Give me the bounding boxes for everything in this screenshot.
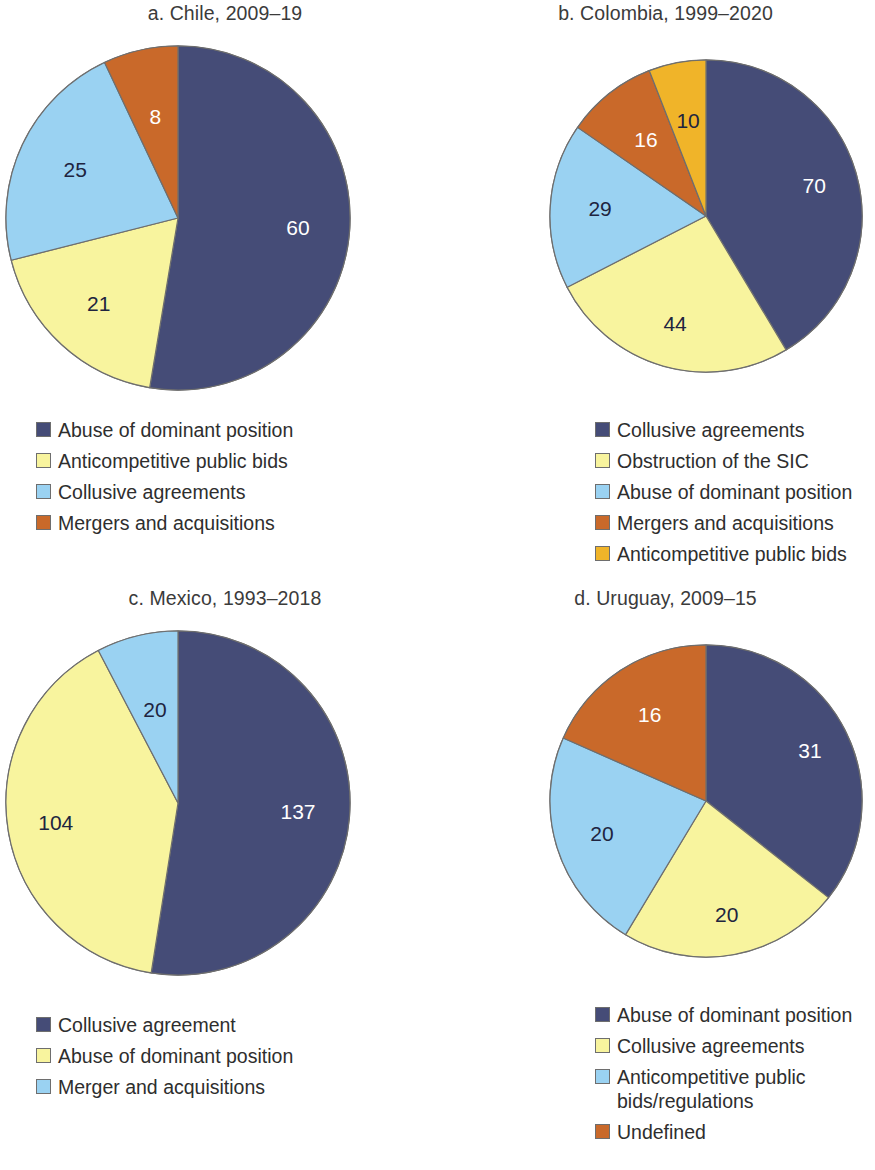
panel-title-mexico: c. Mexico, 1993–2018 bbox=[0, 587, 440, 609]
pie-chart-chile: 6021258 bbox=[0, 24, 440, 404]
legend-swatch-icon bbox=[595, 515, 610, 530]
legend-item-label: Obstruction of the SIC bbox=[617, 449, 809, 473]
pie-svg-uruguay: 31202016 bbox=[440, 609, 875, 989]
legend-item[interactable]: Abuse of dominant position bbox=[36, 418, 293, 442]
slice-value-label: 20 bbox=[143, 698, 166, 721]
legend-item-label: Anticompetitive public bids/regulations bbox=[617, 1065, 806, 1113]
legend-swatch-icon bbox=[595, 1124, 610, 1139]
legend-item[interactable]: Mergers and acquisitions bbox=[36, 511, 293, 535]
panel-title-uruguay: d. Uruguay, 2009–15 bbox=[440, 587, 875, 609]
panel-colombia: b. Colombia, 1999–2020 7044291610 Collus… bbox=[440, 0, 875, 585]
slice-value-label: 25 bbox=[64, 158, 87, 181]
legend-item-label: Anticompetitive public bids bbox=[58, 449, 288, 473]
legend-item[interactable]: Anticompetitive public bids bbox=[595, 542, 852, 566]
slice-value-label: 8 bbox=[150, 105, 162, 128]
legend-item[interactable]: Collusive agreements bbox=[595, 418, 852, 442]
legend-colombia: Collusive agreementsObstruction of the S… bbox=[595, 418, 852, 573]
panel-chile: a. Chile, 2009–19 6021258 Abuse of domin… bbox=[0, 0, 440, 585]
legend-item[interactable]: Collusive agreements bbox=[36, 480, 293, 504]
legend-item-label: Mergers and acquisitions bbox=[617, 511, 834, 535]
slice-value-label: 60 bbox=[286, 216, 309, 239]
legend-swatch-icon bbox=[595, 1038, 610, 1053]
legend-item[interactable]: Undefined bbox=[595, 1120, 852, 1144]
legend-item[interactable]: Abuse of dominant position bbox=[36, 1044, 293, 1068]
slice-value-label: 44 bbox=[663, 312, 687, 335]
legend-chile: Abuse of dominant positionAnticompetitiv… bbox=[36, 418, 293, 542]
panel-title-chile: a. Chile, 2009–19 bbox=[0, 2, 440, 24]
legend-swatch-icon bbox=[595, 546, 610, 561]
legend-uruguay: Abuse of dominant positionCollusive agre… bbox=[595, 1003, 852, 1151]
pie-slice bbox=[151, 631, 350, 975]
legend-item[interactable]: Abuse of dominant position bbox=[595, 480, 852, 504]
slice-value-label: 16 bbox=[638, 703, 661, 726]
legend-item[interactable]: Collusive agreement bbox=[36, 1013, 293, 1037]
legend-item[interactable]: Abuse of dominant position bbox=[595, 1003, 852, 1027]
legend-item-label: Collusive agreement bbox=[58, 1013, 236, 1037]
legend-swatch-icon bbox=[595, 1069, 610, 1084]
slice-value-label: 21 bbox=[87, 292, 110, 315]
legend-item-label: Abuse of dominant position bbox=[617, 480, 852, 504]
legend-swatch-icon bbox=[36, 515, 51, 530]
slice-value-label: 70 bbox=[803, 174, 826, 197]
legend-swatch-icon bbox=[36, 1017, 51, 1032]
legend-swatch-icon bbox=[36, 1048, 51, 1063]
slice-value-label: 104 bbox=[38, 811, 73, 834]
legend-item[interactable]: Merger and acquisitions bbox=[36, 1075, 293, 1099]
legend-item-label: Collusive agreements bbox=[58, 480, 246, 504]
legend-item-label: Collusive agreements bbox=[617, 1034, 805, 1058]
pie-chart-figure: a. Chile, 2009–19 6021258 Abuse of domin… bbox=[0, 0, 875, 1170]
legend-item-label: Anticompetitive public bids bbox=[617, 542, 847, 566]
legend-swatch-icon bbox=[595, 422, 610, 437]
legend-item[interactable]: Anticompetitive public bids bbox=[36, 449, 293, 473]
legend-item-label: Abuse of dominant position bbox=[617, 1003, 852, 1027]
legend-item-label: Abuse of dominant position bbox=[58, 1044, 293, 1068]
legend-swatch-icon bbox=[36, 484, 51, 499]
legend-item[interactable]: Collusive agreements bbox=[595, 1034, 852, 1058]
pie-chart-mexico: 13710420 bbox=[0, 609, 440, 989]
legend-swatch-icon bbox=[595, 453, 610, 468]
slice-value-label: 16 bbox=[634, 128, 657, 151]
legend-swatch-icon bbox=[595, 1007, 610, 1022]
legend-item-label: Undefined bbox=[617, 1120, 706, 1144]
legend-swatch-icon bbox=[36, 453, 51, 468]
panel-title-colombia: b. Colombia, 1999–2020 bbox=[440, 2, 875, 24]
slice-value-label: 137 bbox=[280, 800, 315, 823]
legend-item-label: Collusive agreements bbox=[617, 418, 805, 442]
pie-svg-mexico: 13710420 bbox=[0, 609, 440, 989]
pie-slice bbox=[150, 46, 350, 390]
legend-item-label: Mergers and acquisitions bbox=[58, 511, 275, 535]
pie-svg-colombia: 7044291610 bbox=[440, 24, 875, 404]
legend-mexico: Collusive agreementAbuse of dominant pos… bbox=[36, 1013, 293, 1106]
legend-item[interactable]: Obstruction of the SIC bbox=[595, 449, 852, 473]
panel-uruguay: d. Uruguay, 2009–15 31202016 Abuse of do… bbox=[440, 585, 875, 1170]
slice-value-label: 20 bbox=[590, 822, 613, 845]
legend-swatch-icon bbox=[595, 484, 610, 499]
slice-value-label: 29 bbox=[588, 197, 611, 220]
legend-swatch-icon bbox=[36, 1079, 51, 1094]
pie-chart-uruguay: 31202016 bbox=[440, 609, 875, 989]
slice-value-label: 20 bbox=[715, 903, 738, 926]
legend-item[interactable]: Anticompetitive public bids/regulations bbox=[595, 1065, 852, 1113]
pie-svg-chile: 6021258 bbox=[0, 24, 440, 404]
panel-mexico: c. Mexico, 1993–2018 13710420 Collusive … bbox=[0, 585, 440, 1170]
legend-item-label: Abuse of dominant position bbox=[58, 418, 293, 442]
legend-item-label: Merger and acquisitions bbox=[58, 1075, 265, 1099]
slice-value-label: 31 bbox=[798, 739, 821, 762]
pie-chart-colombia: 7044291610 bbox=[440, 24, 875, 404]
legend-item[interactable]: Mergers and acquisitions bbox=[595, 511, 852, 535]
slice-value-label: 10 bbox=[676, 109, 699, 132]
legend-swatch-icon bbox=[36, 422, 51, 437]
